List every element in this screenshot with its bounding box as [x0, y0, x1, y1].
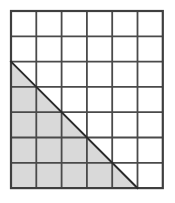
grid-figure: [0, 0, 175, 203]
grid-diagram-svg: [0, 0, 175, 203]
